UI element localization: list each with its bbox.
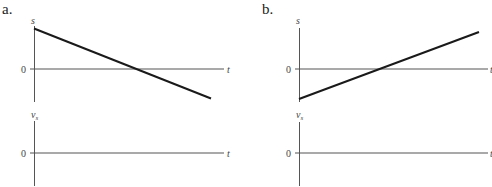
panel-a: a. s 0 t vs 0 t <box>2 1 230 186</box>
panel-b-position-line <box>299 32 479 99</box>
panel-a-v-zero-label: 0 <box>21 148 26 159</box>
panel-b: b. s 0 t vs 0 t <box>262 1 492 186</box>
panel-a-velocity-graph: vs 0 t <box>21 109 230 186</box>
panel-a-position-graph: s 0 t <box>21 15 230 102</box>
panel-b-s-axis-label: s <box>296 15 300 26</box>
panel-b-label: b. <box>262 1 273 17</box>
panel-b-velocity-graph: vs 0 t <box>286 109 492 186</box>
panel-a-s-axis-label: s <box>31 15 35 26</box>
panel-a-t-axis-label: t <box>227 64 230 75</box>
panel-b-v-axis-label: vs <box>296 109 303 122</box>
panel-a-v-t-axis-label: t <box>227 148 230 159</box>
panel-a-s-zero-label: 0 <box>21 64 26 75</box>
panel-a-position-line <box>34 29 211 99</box>
panel-b-v-zero-label: 0 <box>286 148 291 159</box>
panel-b-position-graph: s 0 t <box>286 15 492 102</box>
panel-b-s-zero-label: 0 <box>286 64 291 75</box>
panel-a-v-axis-label: vs <box>31 109 38 122</box>
kinematics-diagram: a. s 0 t vs 0 t b. s 0 t <box>0 0 492 187</box>
panel-a-label: a. <box>2 1 12 17</box>
